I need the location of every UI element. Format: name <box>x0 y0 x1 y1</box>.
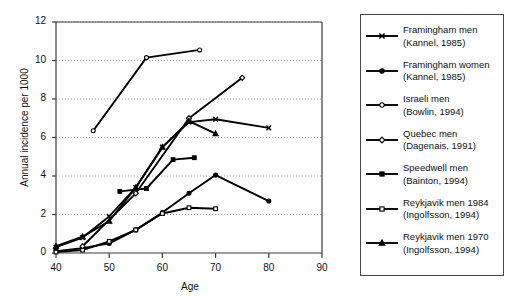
series-line <box>56 119 269 247</box>
legend-marker <box>380 206 384 210</box>
data-point-marker <box>187 191 191 195</box>
legend-label: Framingham women(Kannel, 1985) <box>403 59 490 84</box>
y-tick-label: 6 <box>18 131 46 142</box>
data-point-marker <box>91 129 95 133</box>
y-tick-label: 0 <box>18 246 46 257</box>
data-point-marker <box>134 228 138 232</box>
data-point-marker <box>54 250 58 254</box>
data-point-marker <box>145 187 149 191</box>
y-tick-label: 4 <box>18 169 46 180</box>
x-tick-label: 60 <box>150 262 174 273</box>
series-line <box>93 50 199 131</box>
legend-label-line1: Framingham women <box>403 59 490 72</box>
legend-label-line2: (Dagenais, 1991) <box>403 140 476 153</box>
legend-label: Israeli men(Bowlin, 1994) <box>403 93 464 118</box>
legend-item-5[interactable]: Reykjavik men 1984(Ingolfsson, 1994) <box>361 200 503 234</box>
legend-label-line1: Speedwell men <box>403 162 468 175</box>
legend-label: Reykjavik men 1984(Ingolfsson, 1994) <box>403 197 489 222</box>
legend-marker <box>380 68 384 72</box>
legend-label-line2: (Bowlin, 1994) <box>403 106 464 119</box>
filled-triangle-marker <box>365 236 399 250</box>
x-axis-title: Age <box>150 281 230 292</box>
filled-circle-marker <box>365 64 399 78</box>
x-tick-label: 90 <box>310 262 334 273</box>
series-line <box>83 78 243 246</box>
legend-label: Quebec men(Dagenais, 1991) <box>403 128 476 153</box>
legend-item-1[interactable]: Framingham women(Kannel, 1985) <box>361 62 503 96</box>
legend-label: Speedwell men(Bainton, 1994) <box>403 162 468 187</box>
legend-label-line2: (Ingolfsson, 1994) <box>403 209 489 222</box>
open-square-marker <box>365 202 399 216</box>
open-diamond-marker <box>365 133 399 147</box>
filled-square-marker <box>365 167 399 181</box>
legend-label-line2: (Kannel, 1985) <box>403 71 490 84</box>
chart-panel: Annual incidence per 1000 Age 0246810124… <box>0 0 345 306</box>
legend-label: Framingham men(Kannel, 1985) <box>403 24 477 49</box>
legend-label-line2: (Kannel, 1985) <box>403 37 477 50</box>
legend-item-2[interactable]: Israeli men(Bowlin, 1994) <box>361 96 503 130</box>
x-tick-label: 80 <box>257 262 281 273</box>
data-point-marker <box>118 190 122 194</box>
legend-item-3[interactable]: Quebec men(Dagenais, 1991) <box>361 131 503 165</box>
data-point-marker <box>214 173 218 177</box>
data-point-marker <box>53 244 58 249</box>
data-point-marker <box>144 56 148 60</box>
data-point-marker <box>187 206 191 210</box>
legend-item-6[interactable]: Reykjavik men 1970(Ingolfsson, 1994) <box>361 234 503 268</box>
data-point-marker <box>213 131 218 136</box>
x-tick-label: 50 <box>97 262 121 273</box>
legend-label: Reykjavik men 1970(Ingolfsson, 1994) <box>403 231 489 256</box>
cross-x-marker <box>365 29 399 43</box>
line-chart-plot <box>0 0 345 306</box>
open-circle-marker <box>365 98 399 112</box>
legend-marker <box>380 172 384 176</box>
data-point-marker <box>198 48 202 52</box>
y-tick-label: 8 <box>18 92 46 103</box>
legend-label-line1: Reykjavik men 1970 <box>403 231 489 244</box>
legend-label-line1: Quebec men <box>403 128 476 141</box>
data-point-marker <box>161 212 165 216</box>
legend-label-line1: Framingham men <box>403 24 477 37</box>
y-tick-label: 2 <box>18 208 46 219</box>
data-point-marker <box>171 158 175 162</box>
data-point-marker <box>214 207 218 211</box>
data-point-marker <box>81 248 85 252</box>
x-tick-label: 70 <box>204 262 228 273</box>
x-tick-label: 40 <box>44 262 68 273</box>
figure-root: Annual incidence per 1000 Age 0246810124… <box>0 0 511 306</box>
y-tick-label: 12 <box>18 15 46 26</box>
data-point-marker <box>267 199 271 203</box>
legend-label-line1: Reykjavik men 1984 <box>403 197 489 210</box>
legend-label-line2: (Ingolfsson, 1994) <box>403 244 489 257</box>
series-5 <box>54 206 217 254</box>
legend-label-line2: (Bainton, 1994) <box>403 175 468 188</box>
legend-label-line1: Israeli men <box>403 93 464 106</box>
legend: Framingham men(Kannel, 1985)Framingham w… <box>360 14 504 276</box>
series-0 <box>54 117 271 250</box>
data-point-marker <box>107 240 111 244</box>
legend-item-4[interactable]: Speedwell men(Bainton, 1994) <box>361 165 503 199</box>
y-tick-label: 10 <box>18 54 46 65</box>
legend-marker <box>379 137 385 143</box>
legend-marker <box>379 240 385 245</box>
legend-marker <box>380 103 384 107</box>
legend-item-0[interactable]: Framingham men(Kannel, 1985) <box>361 27 503 61</box>
series-4 <box>118 156 196 193</box>
data-point-marker <box>192 156 196 160</box>
